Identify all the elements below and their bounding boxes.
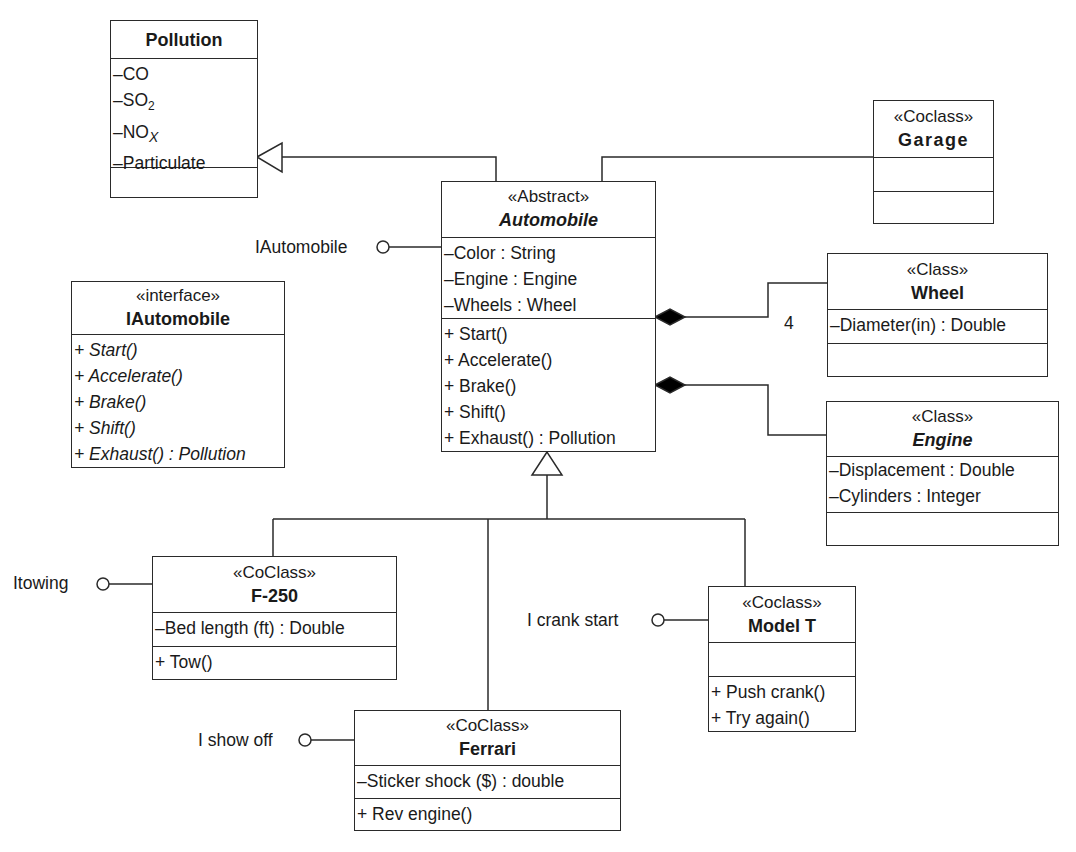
attribute-row: –Engine : Engine [444,266,655,292]
class-name: Model T [748,614,816,638]
operation-row: + Exhaust() : Pollution [74,441,284,467]
class-ferrari[interactable]: «CoClass» Ferrari –Sticker shock ($) : d… [354,710,621,831]
attribute-row: –Diameter(in) : Double [830,312,1047,338]
attributes-section [874,158,993,192]
class-header: «interface» IAutomobile [72,282,284,335]
generalization-arrowhead-pollution [257,143,282,172]
operation-row: + Accelerate() [444,347,655,373]
class-name: IAutomobile [126,307,230,331]
interface-label-icrankstart: I crank start [527,609,618,631]
operation-row: + Shift() [444,399,655,425]
multiplicity-label-wheels: 4 [784,312,794,334]
class-name: F-250 [251,584,298,608]
composition-diamond-engine [655,377,685,393]
operation-row: + Brake() [74,389,284,415]
class-name: Pollution [146,28,223,52]
operation-row: + Tow() [155,649,396,675]
attribute-row: –CO [113,61,257,87]
operation-row: + Brake() [444,373,655,399]
attribute-row: –NOX [113,119,257,150]
class-name: Engine [912,428,972,452]
operations-section [827,513,1058,545]
association-line-automobile-garage [602,157,873,181]
attribute-row: –Cylinders : Integer [829,483,1058,509]
class-wheel[interactable]: «Class» Wheel –Diameter(in) : Double [827,253,1048,377]
operations-section: + Push crank() + Try again() [709,677,855,731]
operations-section: + Rev engine() [355,799,620,830]
interface-label-iautomobile: IAutomobile [255,236,347,258]
attribute-row: –Bed length (ft) : Double [155,615,396,641]
generalization-line-automobile-pollution [282,157,496,181]
class-header: «CoClass» F-250 [153,557,396,613]
class-f250[interactable]: «CoClass» F-250 –Bed length (ft) : Doubl… [152,556,397,680]
attributes-section: –CO –SO2 –NOX –Particulate [111,59,257,168]
operation-row: + Accelerate() [74,363,284,389]
operations-section: + Start() + Accelerate() + Brake() + Shi… [72,335,284,467]
lollipop-circle-icrankstart [652,614,664,626]
interface-label-itowing: Itowing [13,572,68,594]
class-pollution[interactable]: Pollution –CO –SO2 –NOX –Particulate [110,20,258,198]
operations-section [111,168,257,197]
class-header: «Class» Engine [827,402,1058,457]
class-stereotype: «Abstract» [508,186,589,208]
interface-label-ishowoff: I show off [198,729,273,751]
operations-section: + Tow() [153,647,396,679]
class-modelt[interactable]: «Coclass» Model T + Push crank() + Try a… [708,586,856,732]
class-header: Pollution [111,21,257,59]
class-stereotype: «Class» [912,406,973,428]
class-name: Ferrari [459,737,516,761]
class-stereotype: «interface» [136,285,220,307]
composition-line-wheel [685,283,827,317]
attributes-section [709,643,855,677]
operations-section [874,192,993,223]
operations-section: + Start() + Accelerate() + Brake() + Shi… [442,319,655,451]
lollipop-circle-itowing [97,578,109,590]
lollipop-circle-iautomobile [377,241,389,253]
operation-row: + Shift() [74,415,284,441]
attributes-section: –Displacement : Double –Cylinders : Inte… [827,457,1058,513]
attributes-section: –Sticker shock ($) : double [355,766,620,799]
operation-row: + Start() [444,321,655,347]
attributes-section: –Diameter(in) : Double [828,310,1047,344]
composition-diamond-wheel [655,309,685,325]
operation-row: + Try again() [711,705,855,731]
class-header: «CoClass» Ferrari [355,711,620,766]
attribute-row: –Wheels : Wheel [444,292,655,318]
class-engine[interactable]: «Class» Engine –Displacement : Double –C… [826,401,1059,546]
attribute-row: –SO2 [113,87,257,119]
class-name: Wheel [911,281,964,305]
class-name: Garage [898,128,969,152]
operation-row: + Exhaust() : Pollution [444,425,655,451]
attribute-row: –Sticker shock ($) : double [357,768,620,794]
attribute-row: –Displacement : Double [829,457,1058,483]
class-stereotype: «Class» [907,259,968,281]
class-garage[interactable]: «Coclass» Garage [873,100,994,224]
class-stereotype: «Coclass» [742,592,821,614]
class-stereotype: «Coclass» [894,106,973,128]
class-header: «Coclass» Model T [709,587,855,643]
operation-row: + Push crank() [711,679,855,705]
operations-section [828,344,1047,376]
attributes-section: –Color : String –Engine : Engine –Wheels… [442,238,655,319]
class-automobile[interactable]: «Abstract» Automobile –Color : String –E… [441,181,656,452]
operation-row: + Rev engine() [357,801,620,827]
attribute-row: –Color : String [444,240,655,266]
operation-row: + Start() [74,337,284,363]
attributes-section: –Bed length (ft) : Double [153,613,396,647]
generalization-arrowhead-automobile [532,452,562,475]
composition-line-engine [685,385,826,435]
class-stereotype: «CoClass» [446,715,529,737]
class-iautomobile-interface[interactable]: «interface» IAutomobile + Start() + Acce… [71,281,285,468]
class-header: «Coclass» Garage [874,101,993,158]
class-header: «Class» Wheel [828,254,1047,310]
class-header: «Abstract» Automobile [442,182,655,238]
lollipop-circle-ishowoff [299,734,311,746]
class-name: Automobile [499,208,598,232]
class-stereotype: «CoClass» [233,562,316,584]
